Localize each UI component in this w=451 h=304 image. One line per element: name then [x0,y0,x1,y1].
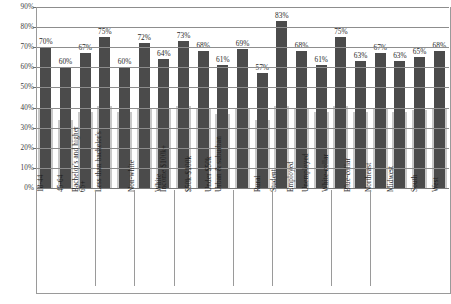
y-axis-tick-label: 50% [21,83,34,91]
x-axis-category-label: Unemployed [302,153,310,192]
x-axis-category-label: 45-64 [57,174,65,192]
x-axis-category: Blue-collar [351,190,371,290]
x-axis-category: Under $50k [213,190,233,290]
x-axis-category: 65+ [75,190,95,290]
y-axis-tick-label: 10% [21,164,34,172]
x-axis-category-label: Non-white [128,160,136,192]
x-axis-category-label: Midwest [387,166,395,192]
y-axis-tick-label: 90% [21,3,34,11]
y-axis-tick-label: 60% [21,63,34,71]
x-axis-category-labels: 18-4445-6465+Bachelor's and higherLess t… [36,190,449,290]
bar-value-label: 64% [157,49,171,58]
category-group-divider [174,190,175,286]
x-axis-category: Income $100k+ [174,190,194,290]
x-axis-category: Student [272,190,292,290]
bar-value-label: 60% [118,57,132,66]
x-axis-category: South [410,190,430,290]
gridline [36,47,449,48]
bar-value-label: 68% [295,41,309,50]
category-group-divider [370,190,371,286]
bar-value-label: 61% [216,55,230,64]
bar-primary [257,73,268,188]
category-group-divider [134,190,135,286]
bar-group: 69% [233,7,253,188]
bar-value-label: 72% [137,33,151,42]
x-axis-category-label: Urban & suburban [215,136,223,192]
bar-group: 72% [134,7,154,188]
x-axis-category: Bachelor's and higher [95,190,115,290]
y-axis-tick [33,108,36,109]
y-axis-tick [33,27,36,28]
bar-group: 57% [252,7,272,188]
bar-primary [139,43,150,188]
x-axis-category: Rural [252,190,272,290]
x-axis-category-label: Student [270,169,278,192]
x-axis-category: White-collar [331,190,351,290]
x-axis-category: White [154,190,174,290]
bar-value-label: 63% [393,51,407,60]
bar-value-label: 68% [432,41,446,50]
gridline [36,128,449,129]
x-axis-category: Less than bachelor's [115,190,135,290]
gridline [36,7,449,8]
x-axis-category-label: 18-44 [37,174,45,192]
bar-value-label: 75% [98,27,112,36]
bar-value-label: 73% [177,31,191,40]
gridline [36,108,449,109]
bar-value-label: 61% [314,55,328,64]
gridline [36,27,449,28]
x-axis-category: Midwest [390,190,410,290]
x-axis-category: West [429,190,449,290]
y-axis-tick [33,168,36,169]
x-axis-category-label: South [411,174,419,192]
x-axis-category: Urban & suburban [233,190,253,290]
y-axis-tick-label: 0% [24,184,34,192]
gridline [36,67,449,68]
x-axis-category: Unemployed [311,190,331,290]
x-axis-category: Northeast [370,190,390,290]
x-axis-category-label: Bachelor's and higher [72,126,80,192]
y-axis-tick-label: 70% [21,43,34,51]
x-axis-category-label: Employed [286,161,294,192]
y-axis-tick-label: 30% [21,124,34,132]
bar-chart: 90%80%70%60%50%40%30%20%10%0% 70%60%67%7… [0,0,451,304]
bar-value-label: 63% [354,51,368,60]
bar-value-label: 68% [196,41,210,50]
x-axis-category-label: Under $50k [205,156,213,192]
y-axis-tick-label: 80% [21,23,34,31]
x-axis-category-label: West [432,177,440,192]
category-group-divider [233,190,234,286]
bar-group: 67% [370,7,390,188]
x-axis-category-label: $50k-$100k [185,156,193,192]
y-axis-tick [33,67,36,68]
x-axis-category-label: Rural [254,175,262,192]
bar-primary [40,47,51,188]
x-axis-category-label: 65+ [79,180,87,192]
x-axis-category-label: Blue-collar [344,158,352,192]
bar-value-label: 75% [334,27,348,36]
x-axis-category-label: Less than bachelor's [94,131,102,192]
bar-group: 65% [410,7,430,188]
x-axis-category-label: Northeast [366,163,374,192]
x-axis-category: Employed [292,190,312,290]
gridline [36,87,449,88]
x-axis-category-label: White-collar [322,154,330,192]
category-group-divider [95,190,96,286]
bar-value-label: 70% [39,37,53,46]
bar-value-label: 65% [413,47,427,56]
bar-primary [394,61,405,188]
category-group-divider [331,190,332,286]
x-axis-category: $50k-$100k [193,190,213,290]
y-axis-tick [33,148,36,149]
bar-value-label: 60% [59,57,73,66]
x-axis-category: 45-64 [56,190,76,290]
y-axis-tick [33,7,36,8]
bar-value-label: 83% [275,11,289,20]
x-axis-category: Non-white [134,190,154,290]
y-axis-tick [33,47,36,48]
y-axis: 90%80%70%60%50%40%30%20%10%0% [0,0,34,304]
y-axis-tick-label: 40% [21,104,34,112]
bar-group: 68% [429,7,449,188]
x-axis-category: 18-44 [36,190,56,290]
bar-group: 63% [351,7,371,188]
